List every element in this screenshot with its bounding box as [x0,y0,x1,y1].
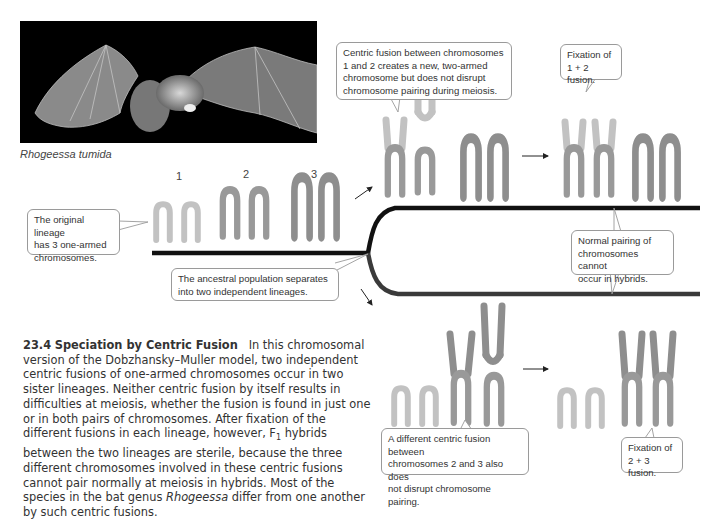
callout-fixation-2-3: Fixation of 2 + 3 fusion. [621,437,683,473]
callout-fusion-2-3: A different centric fusion between chrom… [381,428,529,475]
lower-fixed-chromosomes [560,334,673,426]
figure-caption: 23.4 Speciation by Centric Fusion In thi… [23,338,373,520]
arrow-to-upper-lineage [355,187,372,199]
caption-genus: Rhogeessa [166,490,228,504]
callout-original-lineage: The original lineage has 3 one-armed chr… [27,209,120,255]
figure-number: 23.4 [23,338,51,352]
upper-fixed-chromosomes [565,122,678,197]
lower-fusion-chromosomes [394,306,502,424]
callout-fusion-1-2: Centric fusion between chromosomes 1 and… [336,42,512,100]
upper-fusion-chromosomes [386,96,506,197]
original-chromosomes [156,177,336,240]
callout-hybrid-pairing: Normal pairing of chromosomes cannot occ… [571,230,674,275]
callout-fixation-1-2: Fixation of 1 + 2 fusion. [560,44,622,80]
caption-body-1: In this chromosomal version of the Dobzh… [23,338,370,440]
callout-ancestral-split: The ancestral population separates into … [171,268,339,301]
arrow-to-lower-lineage [361,289,372,305]
figure-title: Speciation by Centric Fusion [55,338,238,352]
